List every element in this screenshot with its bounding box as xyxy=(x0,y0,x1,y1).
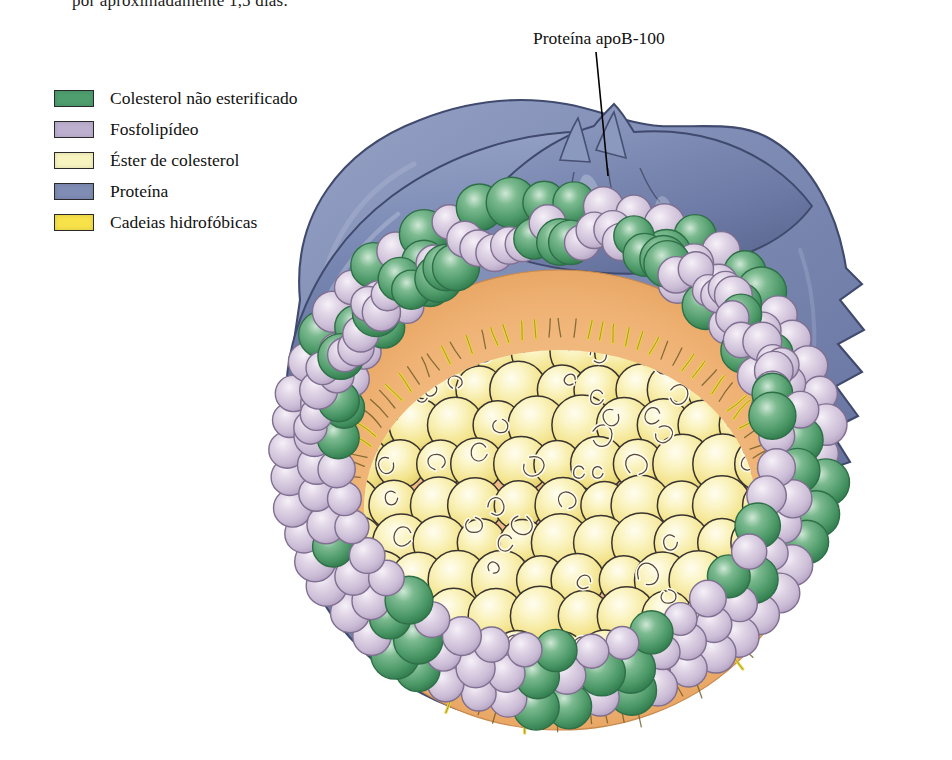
legend-swatch-unesterified-cholesterol xyxy=(54,90,94,107)
legend-label: Éster de colesterol xyxy=(110,152,239,170)
legend-item: Proteína xyxy=(54,176,298,207)
callout-apob-100-label: Proteína apoB-100 xyxy=(533,28,665,49)
legend-label: Cadeias hidrofóbicas xyxy=(110,214,257,232)
legend: Colesterol não esterificado Fosfolipídeo… xyxy=(54,83,298,238)
legend-item: Cadeias hidrofóbicas xyxy=(54,207,298,238)
legend-label: Proteína xyxy=(110,183,168,201)
legend-item: Colesterol não esterificado xyxy=(54,83,298,114)
legend-swatch-phospholipid xyxy=(54,121,94,138)
legend-label: Colesterol não esterificado xyxy=(110,90,298,108)
legend-item: Éster de colesterol xyxy=(54,145,298,176)
legend-label: Fosfolipídeo xyxy=(110,121,198,139)
legend-swatch-protein xyxy=(54,183,94,200)
legend-item: Fosfolipídeo xyxy=(54,114,298,145)
legend-swatch-hydrophobic-chains xyxy=(54,214,94,231)
legend-swatch-cholesterol-ester xyxy=(54,152,94,169)
figure-page: por aproximadamente 1,5 dias. xyxy=(0,0,952,760)
